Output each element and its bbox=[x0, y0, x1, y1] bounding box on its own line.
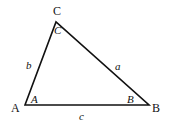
side-label-b: b bbox=[26, 59, 32, 71]
angle-label-c: C bbox=[54, 24, 62, 36]
side-label-a: a bbox=[115, 60, 121, 72]
vertex-label-b: B bbox=[152, 101, 160, 115]
side-label-c: c bbox=[79, 110, 84, 122]
angle-label-a: A bbox=[30, 93, 38, 105]
angle-label-b: B bbox=[127, 93, 134, 105]
triangle-diagram: C A B C A B b a c bbox=[0, 0, 170, 122]
triangle-svg: C A B C A B b a c bbox=[0, 0, 170, 122]
vertex-label-a: A bbox=[11, 101, 20, 115]
vertex-label-c: C bbox=[53, 4, 61, 18]
